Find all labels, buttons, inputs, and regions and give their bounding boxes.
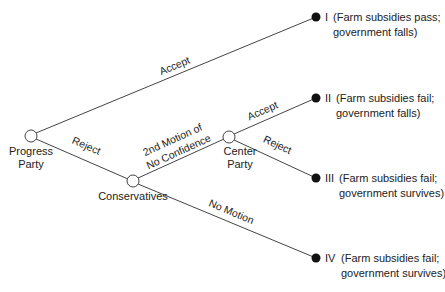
outcome-line1: (Farm subsidies fail;: [336, 92, 434, 104]
edge-label-center-reject: Reject: [262, 133, 294, 156]
outcome-line2: government survives): [341, 267, 445, 279]
outcome-line1: (Farm subsidies fail;: [339, 172, 437, 184]
label-conservatives: Conservatives: [98, 190, 168, 202]
outcome-numeral: III: [325, 172, 334, 184]
label-center-line1: Center: [223, 145, 256, 157]
outcome-line1: (Farm subsidies fail;: [341, 252, 439, 264]
label-progress-line1: Progress: [9, 145, 54, 157]
node-progress-party: [25, 130, 37, 142]
outcome-numeral: I: [325, 11, 328, 23]
edge-progress-accept: [36, 17, 316, 133]
outcome-III: III (Farm subsidies fail; government sur…: [325, 172, 444, 199]
label-progress-line2: Party: [18, 158, 44, 170]
outcome-IV: IV (Farm subsidies fail; government surv…: [325, 252, 445, 279]
outcome-line1: (Farm subsidies pass;: [333, 11, 441, 23]
terminal-node-II: [312, 94, 321, 103]
edge-label-progress-reject: Reject: [71, 134, 103, 157]
edge-label-center-accept: Accept: [245, 98, 279, 122]
terminal-node-I: [312, 13, 321, 22]
outcome-numeral: II: [325, 92, 331, 104]
game-tree-diagram: Progress Party Conservatives Center Part…: [0, 0, 445, 292]
edge-label-nomotion: No Motion: [207, 197, 256, 226]
outcome-line2: government survives): [339, 187, 444, 199]
outcome-II: II (Farm subsidies fail; government fall…: [325, 92, 434, 119]
outcome-line2: government falls): [333, 26, 417, 38]
terminal-node-IV: [312, 254, 321, 263]
node-center-party: [223, 131, 235, 143]
edge-label-progress-accept: Accept: [157, 54, 191, 77]
label-center-line2: Party: [227, 158, 253, 170]
outcome-I: I (Farm subsidies pass; government falls…: [325, 11, 441, 38]
terminal-node-III: [312, 174, 321, 183]
outcome-line2: government falls): [336, 107, 420, 119]
outcome-numeral: IV: [325, 252, 336, 264]
node-conservatives: [127, 175, 139, 187]
